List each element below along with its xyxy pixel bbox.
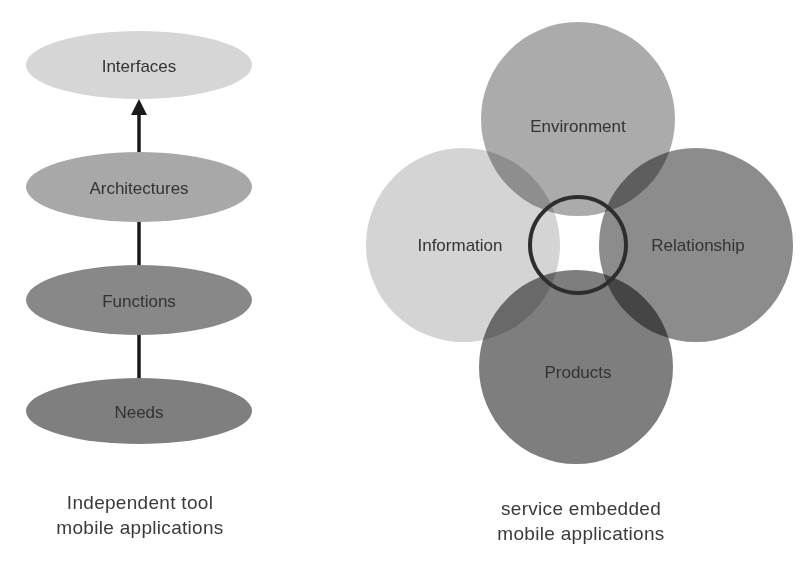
label-architectures: Architectures — [89, 179, 188, 198]
right-caption-line1: service embedded — [476, 496, 686, 521]
label-environment: Environment — [530, 117, 626, 136]
label-functions: Functions — [102, 292, 176, 311]
node-functions: Functions — [26, 265, 252, 335]
node-architectures: Architectures — [26, 152, 252, 222]
node-interfaces: Interfaces — [26, 31, 252, 99]
label-interfaces: Interfaces — [102, 57, 177, 76]
label-products: Products — [544, 363, 611, 382]
layer-hierarchy-diagram: Interfaces Architectures Functions Needs — [26, 31, 252, 444]
left-caption-line1: Independent tool — [20, 490, 260, 515]
node-needs: Needs — [26, 378, 252, 444]
figure-canvas: Interfaces Architectures Functions Needs… — [0, 0, 808, 564]
overlapping-circles-diagram: Environment Information Relationship Pro… — [366, 22, 793, 464]
right-caption: service embedded mobile applications — [476, 496, 686, 546]
arrow-up-icon — [131, 99, 147, 115]
label-relationship: Relationship — [651, 236, 745, 255]
left-caption: Independent tool mobile applications — [20, 490, 260, 540]
label-needs: Needs — [114, 403, 163, 422]
right-caption-line2: mobile applications — [476, 521, 686, 546]
left-caption-line2: mobile applications — [20, 515, 260, 540]
label-information: Information — [417, 236, 502, 255]
